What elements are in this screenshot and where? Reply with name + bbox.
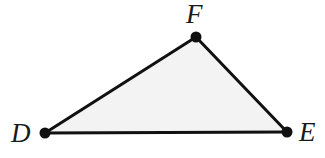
vertex-label-d: D (11, 120, 31, 147)
vertex-label-e: E (299, 119, 316, 146)
vertex-label-f: F (186, 1, 203, 28)
vertex-dot-d (40, 128, 51, 139)
triangle-svg (0, 0, 325, 158)
vertex-dot-e (282, 127, 293, 138)
triangle-def-shape (45, 37, 287, 133)
geometry-figure: D E F (0, 0, 325, 158)
edge-d-e (45, 132, 287, 133)
vertex-dot-f (191, 32, 202, 43)
